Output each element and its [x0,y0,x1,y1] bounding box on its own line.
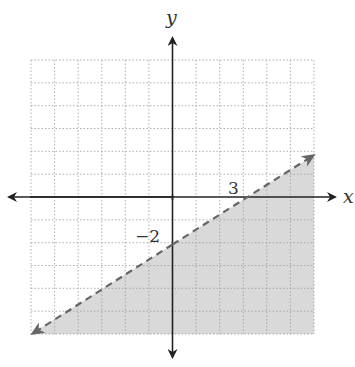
y-axis-label: y [165,6,177,28]
x-intercept-label: 3 [228,178,239,198]
y-intercept-label: −2 [135,226,160,246]
coordinate-plane: y x 3 −2 [0,0,355,367]
x-axis-label: x [343,185,354,207]
